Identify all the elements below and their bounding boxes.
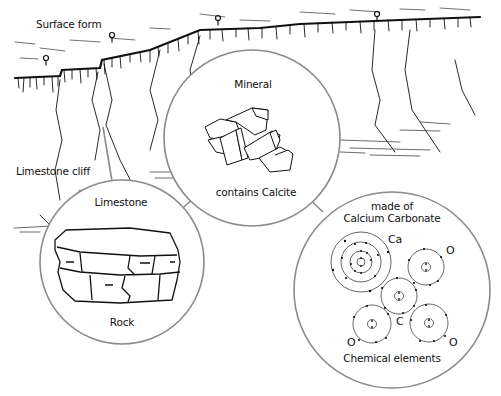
mineral-circle	[164, 50, 340, 226]
label-atom-c: C	[396, 315, 403, 328]
label-surface-form: Surface form	[36, 18, 101, 30]
label-atom-o-bottom-right: O	[449, 336, 457, 349]
label-mineral: Mineral	[234, 78, 271, 90]
label-made-of: made of	[371, 200, 413, 212]
label-limestone: Limestone	[95, 196, 148, 208]
limestone-hierarchy-diagram	[0, 0, 501, 396]
label-limestone-cliff: Limestone cliff	[16, 165, 90, 177]
label-atom-o-top-right: O	[446, 244, 454, 257]
rock-block-icon	[55, 228, 180, 303]
label-atom-o-bottom-left: O	[347, 336, 355, 349]
label-calcium-carbonate: Calcium Carbonate	[343, 212, 440, 224]
label-chemical-elements: Chemical elements	[343, 352, 440, 364]
label-atom-ca: Ca	[388, 233, 402, 246]
label-contains-calcite: contains Calcite	[216, 186, 297, 198]
connector-cliff-to-limestone	[103, 127, 112, 181]
label-rock: Rock	[110, 316, 134, 328]
